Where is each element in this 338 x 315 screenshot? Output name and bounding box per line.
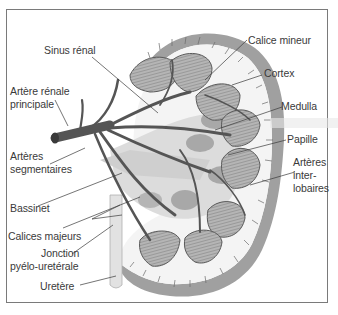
label-arteres-interlobaires-line1: Artères xyxy=(293,156,326,168)
label-artere-renale-line2: principale xyxy=(10,98,54,110)
label-bassinet: Bassinet xyxy=(10,202,49,214)
label-artere-renale-line1: Artère rénale xyxy=(10,85,69,97)
label-jonction-line2: pyélo-uretérale xyxy=(10,260,79,272)
label-arteres-segmentaires-line2: segmentaires xyxy=(10,163,72,175)
label-cortex: Cortex xyxy=(264,67,294,79)
label-arteres-interlobaires-line2: inter- xyxy=(293,169,316,181)
label-medulla: Medulla xyxy=(281,100,317,112)
renal-artery-opening xyxy=(51,133,59,144)
label-papille: Papille xyxy=(287,133,318,145)
label-jonction-line1: Jonction xyxy=(41,247,79,259)
label-calice-mineur: Calice mineur xyxy=(248,34,311,46)
label-arteres-segmentaires-line1: Artères xyxy=(10,150,43,162)
label-calices-majeurs: Calices majeurs xyxy=(8,230,81,242)
scan-artifact xyxy=(270,118,338,128)
label-uretere: Uretère xyxy=(40,280,74,292)
label-sinus-renal: Sinus rénal xyxy=(44,44,95,56)
label-arteres-interlobaires-line3: lobaires xyxy=(293,182,329,194)
